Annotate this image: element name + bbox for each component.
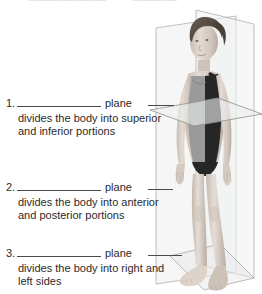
question-1-description-line-2: and inferior portions bbox=[18, 125, 156, 138]
question-2-description-line-1: divides the body into anterior bbox=[18, 196, 156, 209]
question-2-description-line-2: and posterior portions bbox=[18, 209, 156, 222]
question-2-description: divides the body into anterior and poste… bbox=[0, 194, 156, 222]
worksheet-page: Name ______________ Date ________ bbox=[0, 0, 262, 294]
question-item-3: 3. plane divides the body into right and… bbox=[0, 246, 156, 288]
question-2-plane-word: plane bbox=[105, 180, 132, 194]
question-3-prompt-line: 3. plane bbox=[0, 246, 156, 260]
question-item-2: 2. plane divides the body into anterior … bbox=[0, 180, 156, 222]
question-2-prompt-line: 2. plane bbox=[0, 180, 156, 194]
question-3-answer-blank[interactable] bbox=[17, 246, 101, 257]
question-3-description: divides the body into right and left sid… bbox=[0, 260, 156, 288]
cutoff-header-label: Name ______________ Date ________ bbox=[0, 0, 177, 1]
question-1-answer-blank[interactable] bbox=[17, 96, 101, 107]
question-item-1: 1. plane divides the body into superior … bbox=[0, 96, 156, 138]
question-1-plane-word: plane bbox=[105, 96, 132, 110]
leader-line-3 bbox=[148, 255, 182, 256]
question-2-number: 2. bbox=[6, 180, 16, 194]
question-1-description-line-1: divides the body into superior bbox=[18, 112, 156, 125]
question-3-description-line-2: left sides bbox=[18, 275, 156, 288]
leader-line-1 bbox=[148, 105, 174, 106]
question-2-answer-blank[interactable] bbox=[17, 180, 101, 191]
question-3-plane-word: plane bbox=[105, 246, 132, 260]
question-3-number: 3. bbox=[6, 246, 16, 260]
question-3-description-line-1: divides the body into right and bbox=[18, 262, 156, 275]
question-1-prompt-line: 1. plane bbox=[0, 96, 156, 110]
leader-line-2 bbox=[148, 189, 173, 190]
question-1-description: divides the body into superior and infer… bbox=[0, 110, 156, 138]
anatomical-planes-illustration bbox=[150, 2, 262, 294]
question-1-number: 1. bbox=[6, 96, 16, 110]
